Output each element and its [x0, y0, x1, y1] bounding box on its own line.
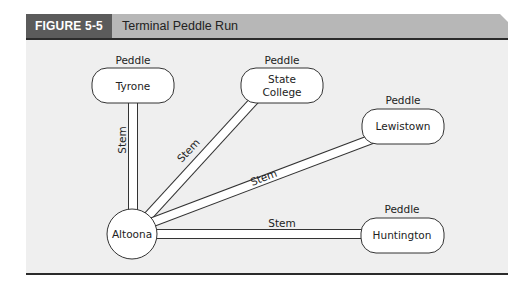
node-lewistown-name: Lewistown: [376, 120, 431, 132]
node-tyrone-type: Peddle: [115, 54, 150, 66]
node-huntington-name: Huntington: [373, 229, 432, 241]
hub-altoona: Altoona: [107, 209, 157, 259]
stem-label-tyrone: Stem: [116, 126, 128, 153]
node-huntington-type: Peddle: [384, 203, 419, 215]
node-state-college: State College Peddle: [241, 54, 323, 103]
node-huntington: Huntington Peddle: [361, 203, 444, 253]
node-lewistown-type: Peddle: [385, 94, 420, 106]
node-tyrone-name: Tyrone: [115, 80, 151, 92]
stem-label-huntington: Stem: [268, 217, 295, 229]
node-state-college-name-line1: State: [268, 73, 296, 85]
terminal-peddle-run-diagram: Tyrone Peddle State College Peddle Lewis…: [0, 0, 532, 286]
node-state-college-name-line2: College: [262, 86, 301, 98]
node-state-college-type: Peddle: [264, 54, 299, 66]
node-tyrone: Tyrone Peddle: [92, 54, 174, 103]
node-lewistown: Lewistown Peddle: [362, 94, 444, 144]
hub-altoona-name: Altoona: [112, 228, 152, 240]
